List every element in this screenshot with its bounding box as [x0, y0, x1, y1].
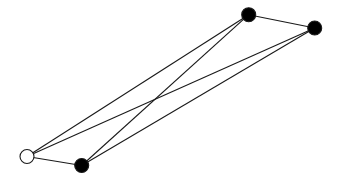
edge-b-d [82, 28, 315, 166]
node-d-filled [308, 21, 322, 35]
edge-a-d [27, 28, 315, 157]
edge-c-d [249, 15, 315, 28]
node-a-unfilled [20, 150, 34, 164]
node-c-filled [242, 8, 256, 22]
edge-a-b [27, 157, 82, 166]
graph-diagram [0, 0, 340, 185]
edge-b-c [82, 15, 249, 166]
edge-a-c [27, 15, 249, 157]
edges-layer [27, 15, 315, 166]
node-b-filled [75, 159, 89, 173]
nodes-layer [20, 8, 322, 173]
